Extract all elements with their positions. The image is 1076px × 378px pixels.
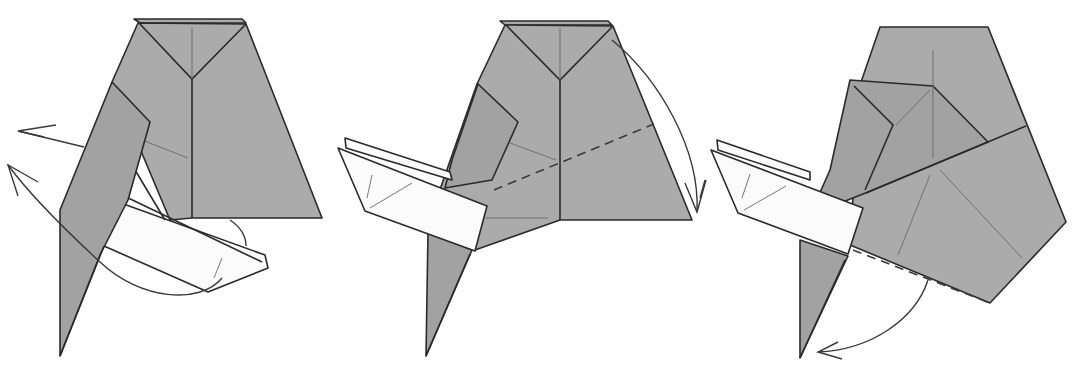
step-3-figure — [700, 27, 1066, 359]
step-1-arrow-back — [230, 220, 246, 246]
step-3-spike — [800, 240, 848, 358]
step-3-edge-mark — [700, 180, 705, 198]
step-1-figure — [8, 19, 322, 356]
diagram-svg — [0, 0, 1076, 378]
step-1-arrow-upper-head — [18, 125, 56, 137]
step-2-spike — [426, 232, 472, 356]
step-3-arrow — [818, 280, 928, 352]
step-1-arrow-lower-head — [8, 165, 38, 196]
origami-diagram — [0, 0, 1076, 378]
step-2-figure — [338, 21, 706, 356]
